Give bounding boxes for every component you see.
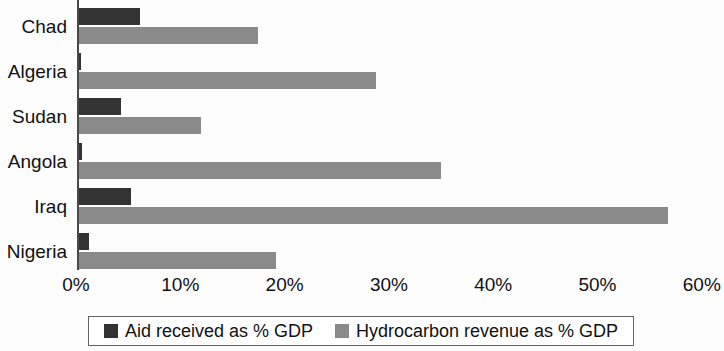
x-tick-label: 30% xyxy=(370,272,408,298)
bar-chad-series2 xyxy=(78,27,258,44)
chart-category-row: Angola xyxy=(0,139,724,184)
bar-sudan-series2 xyxy=(78,117,201,134)
category-bars xyxy=(78,139,724,184)
bar-nigeria-series1 xyxy=(78,233,89,250)
plot-area: ChadAlgeriaSudanAngolaIraqNigeria xyxy=(0,0,724,270)
category-label-angola: Angola xyxy=(0,139,72,184)
category-bars xyxy=(78,4,724,49)
bar-chad-series1 xyxy=(78,8,140,25)
bar-nigeria-series2 xyxy=(78,252,276,269)
category-label-iraq: Iraq xyxy=(0,184,72,229)
y-axis-line xyxy=(77,0,79,270)
bar-iraq-series1 xyxy=(78,188,131,205)
category-label-algeria: Algeria xyxy=(0,49,72,94)
category-bars xyxy=(78,49,724,94)
legend-entry-1: Aid received as % GDP xyxy=(104,322,313,340)
bar-chart: ChadAlgeriaSudanAngolaIraqNigeria 0%10%2… xyxy=(0,0,724,351)
chart-legend: Aid received as % GDPHydrocarbon revenue… xyxy=(88,316,634,346)
chart-category-row: Algeria xyxy=(0,49,724,94)
bar-iraq-series2 xyxy=(78,207,668,224)
category-label-nigeria: Nigeria xyxy=(0,229,72,274)
chart-category-row: Iraq xyxy=(0,184,724,229)
chart-category-row: Sudan xyxy=(0,94,724,139)
x-tick-label: 50% xyxy=(578,272,616,298)
bar-angola-series2 xyxy=(78,162,441,179)
category-label-sudan: Sudan xyxy=(0,94,72,139)
x-axis-tick-labels: 0%10%20%30%40%50%60% xyxy=(0,272,724,300)
x-tick-label: 20% xyxy=(266,272,304,298)
x-tick-label: 10% xyxy=(161,272,199,298)
x-tick-label: 60% xyxy=(683,272,721,298)
category-bars xyxy=(78,229,724,274)
chart-category-row: Nigeria xyxy=(0,229,724,274)
x-tick-label: 40% xyxy=(474,272,512,298)
category-label-chad: Chad xyxy=(0,4,72,49)
legend-swatch-icon xyxy=(104,324,118,338)
x-tick-label: 0% xyxy=(62,272,89,298)
legend-label: Aid received as % GDP xyxy=(125,322,313,340)
bar-algeria-series2 xyxy=(78,72,376,89)
legend-label: Hydrocarbon revenue as % GDP xyxy=(356,322,618,340)
legend-swatch-icon xyxy=(335,324,349,338)
chart-category-row: Chad xyxy=(0,4,724,49)
legend-entry-2: Hydrocarbon revenue as % GDP xyxy=(335,322,618,340)
category-bars xyxy=(78,94,724,139)
bar-sudan-series1 xyxy=(78,98,121,115)
category-bars xyxy=(78,184,724,229)
